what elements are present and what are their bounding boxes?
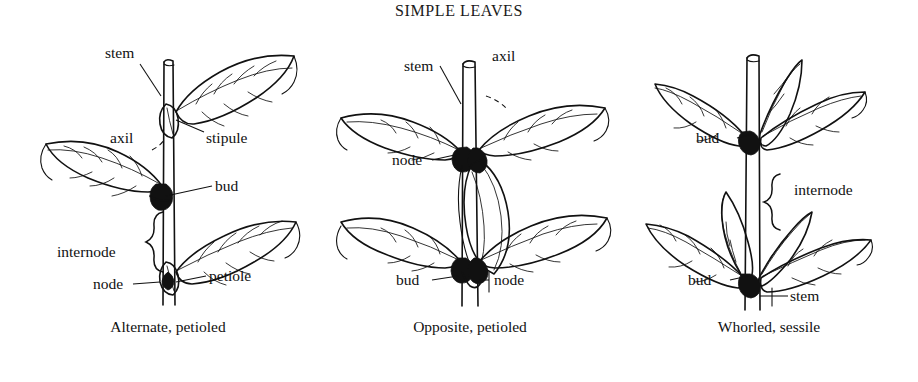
caption-opposite: Opposite, petioled xyxy=(320,318,620,336)
leader-node-1 xyxy=(133,282,160,284)
label-node-alternate: node xyxy=(93,276,123,292)
internode-brace-3 xyxy=(764,174,780,230)
label-stem-opposite: stem xyxy=(404,58,433,74)
leader-axil-1 xyxy=(152,140,164,150)
label-stem-whorled: stem xyxy=(790,288,819,304)
panel-alternate-art xyxy=(41,55,300,305)
simple-leaves-figure: SIMPLE LEAVES xyxy=(0,0,918,382)
internode-brace-1 xyxy=(146,212,163,272)
bud-node-middle xyxy=(150,184,173,210)
label-node-lower-opposite: node xyxy=(494,272,524,288)
leader-bud-1 xyxy=(166,186,212,196)
caption-alternate: Alternate, petioled xyxy=(18,318,318,336)
leader-stem-2 xyxy=(440,66,461,104)
label-axil-alternate: axil xyxy=(110,130,133,146)
leaf-lower-left-2 xyxy=(337,218,461,271)
leader-stem-1 xyxy=(140,64,161,96)
leader-axil-2 xyxy=(486,96,506,108)
label-internode-alternate: internode xyxy=(57,244,116,260)
label-internode-whorled: internode xyxy=(794,182,853,198)
leaf-whorl-lower-mid xyxy=(721,192,752,281)
leader-stipule-1 xyxy=(176,120,204,132)
leaf-upper-right-2 xyxy=(479,105,609,160)
label-stem-alternate: stem xyxy=(105,45,134,61)
panel-opposite-art xyxy=(337,61,611,306)
label-stipule-alternate: stipule xyxy=(206,130,247,146)
label-bud-lower-whorled: bud xyxy=(688,272,711,288)
leaf-whorl-upper-right xyxy=(761,92,867,150)
label-bud-alternate: bud xyxy=(215,178,238,194)
leaf-middle-left xyxy=(41,141,162,196)
caption-whorled: Whorled, sessile xyxy=(620,318,918,336)
leaf-upper-right xyxy=(176,55,297,126)
stipule-art xyxy=(160,104,179,138)
label-axil-opposite: axil xyxy=(492,48,515,64)
leaf-lower-right-2 xyxy=(479,215,611,272)
label-bud-opposite: bud xyxy=(396,272,419,288)
label-bud-upper-whorled: bud xyxy=(696,130,719,146)
leaf-drooping-2 xyxy=(464,160,509,274)
label-node-upper-opposite: node xyxy=(392,152,422,168)
label-petiole-alternate: petiole xyxy=(209,268,251,284)
